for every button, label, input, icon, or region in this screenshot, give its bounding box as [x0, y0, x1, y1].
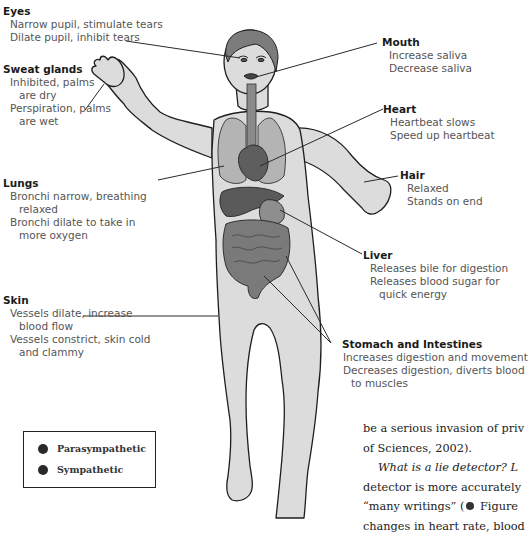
liver-line-1: Releases bile for digestion — [363, 262, 508, 275]
legend-item-sympathetic: Sympathetic — [38, 464, 123, 475]
body-text-line-1: be a serious invasion of priv — [363, 419, 523, 439]
mouth-line-1: Increase saliva — [382, 49, 472, 62]
legend-box: Parasympathetic Sympathetic — [23, 431, 156, 488]
heart-line-2: Speed up heartbeat — [383, 129, 495, 142]
sweat-glands-heading: Sweat glands — [3, 63, 111, 76]
body-text-line-5: “many writings” ( Figure — [363, 497, 523, 517]
legend-label-parasympathetic: Parasympathetic — [57, 443, 146, 454]
mouth-heading: Mouth — [382, 36, 472, 49]
sweat-glands-line-2: are dry — [3, 89, 111, 102]
parasympathetic-dot-icon — [38, 444, 48, 454]
sweat-glands-line-1: Inhibited, palms — [3, 76, 111, 89]
lungs-line-3: Bronchi dilate to take in — [3, 216, 147, 229]
stomach-heading: Stomach and Intestines — [335, 338, 528, 351]
eyes-parasympathetic: Narrow pupil, stimulate tears — [3, 18, 163, 31]
eyes-heading: Eyes — [3, 5, 163, 18]
hair-line-2: Stands on end — [400, 195, 483, 208]
skin-line-2: blood flow — [3, 320, 150, 333]
body-text-line-5a: “many writings” ( — [363, 500, 464, 513]
figure-reference-dot-icon — [466, 502, 474, 510]
body-text-line-2: of Sciences, 2002). — [363, 439, 523, 459]
mouth-line-2: Decrease saliva — [382, 62, 472, 75]
sweat-glands-line-4: are wet — [3, 115, 111, 128]
label-skin: Skin Vessels dilate, increase blood flow… — [3, 294, 150, 359]
sympathetic-dot-icon — [38, 465, 48, 475]
lungs-line-1: Bronchi narrow, breathing — [3, 190, 147, 203]
label-sweat-glands: Sweat glands Inhibited, palms are dry Pe… — [3, 63, 111, 128]
skin-heading: Skin — [3, 294, 150, 307]
trachea — [247, 84, 256, 154]
stomach-line-1: Increases digestion and movement — [335, 351, 528, 364]
skin-line-3: Vessels constrict, skin cold — [3, 333, 150, 346]
skin-line-4: and clammy — [3, 346, 150, 359]
sweat-glands-line-3: Perspiration, palms — [3, 102, 111, 115]
eyes-sympathetic: Dilate pupil, inhibit tears — [3, 31, 163, 44]
page-body-text: be a serious invasion of priv of Science… — [363, 419, 523, 536]
hair-line-1: Relaxed — [400, 182, 483, 195]
label-hair: Hair Relaxed Stands on end — [400, 169, 483, 208]
lungs-heading: Lungs — [3, 177, 147, 190]
stomach-line-3: to muscles — [335, 377, 528, 390]
lungs-line-4: more oxygen — [3, 229, 147, 242]
body-text-line-6: changes in heart rate, blood — [363, 517, 523, 536]
label-stomach-intestines: Stomach and Intestines Increases digesti… — [335, 338, 528, 390]
label-heart: Heart Heartbeat slows Speed up heartbeat — [383, 103, 495, 142]
figure-reference-link[interactable]: Figure — [476, 500, 518, 513]
lungs-line-2: relaxed — [3, 203, 147, 216]
body-text-line-4: detector is more accurately — [363, 478, 523, 498]
body-text-line-3: What is a lie detector? L — [363, 458, 523, 478]
hair-heading: Hair — [400, 169, 483, 182]
legend-item-parasympathetic: Parasympathetic — [38, 443, 146, 454]
label-mouth: Mouth Increase saliva Decrease saliva — [382, 36, 472, 75]
liver-heading: Liver — [363, 249, 508, 262]
label-eyes: Eyes Narrow pupil, stimulate tears Dilat… — [3, 5, 163, 44]
liver-line-2: Releases blood sugar for — [363, 275, 508, 288]
skin-line-1: Vessels dilate, increase — [3, 307, 150, 320]
label-liver: Liver Releases bile for digestion Releas… — [363, 249, 508, 301]
heart-heading: Heart — [383, 103, 495, 116]
heart-line-1: Heartbeat slows — [383, 116, 495, 129]
label-lungs: Lungs Bronchi narrow, breathing relaxed … — [3, 177, 147, 242]
legend-label-sympathetic: Sympathetic — [57, 464, 123, 475]
stomach-line-2: Decreases digestion, diverts blood — [335, 364, 528, 377]
liver-line-3: quick energy — [363, 288, 508, 301]
